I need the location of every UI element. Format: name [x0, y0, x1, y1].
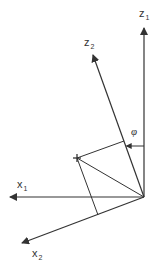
projection-line-x2 [77, 158, 98, 215]
projection-line-z2 [77, 141, 124, 158]
angle-label-phi: φ [131, 125, 137, 137]
axis-label-z2: z2 [84, 36, 95, 50]
point-marker [73, 154, 81, 162]
position-vector [77, 158, 144, 197]
projection-lines [73, 141, 144, 215]
axis-label-z1: z1 [139, 7, 150, 21]
axis-label-x1: x1 [17, 178, 28, 192]
axes [10, 28, 144, 243]
axis-labels: z1z2x1x2φ [17, 7, 150, 261]
axis-x2 [22, 197, 144, 243]
axis-label-x2: x2 [32, 247, 43, 261]
coordinate-rotation-diagram: z1z2x1x2φ [0, 0, 156, 272]
